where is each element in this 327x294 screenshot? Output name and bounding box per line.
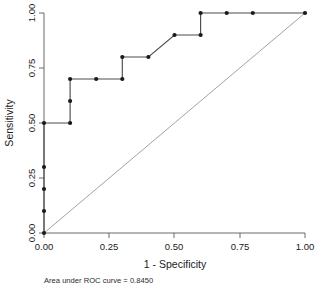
roc-data-point: [68, 121, 72, 125]
x-axis-title: 1 - Specificity: [144, 258, 207, 270]
roc-data-point: [68, 77, 72, 81]
roc-data-point: [146, 55, 150, 59]
roc-data-point: [199, 33, 203, 37]
y-tick-label-1: 0.25: [26, 169, 37, 188]
roc-data-point: [68, 99, 72, 103]
roc-data-point: [42, 231, 46, 235]
x-tick-label-0: 0.00: [35, 241, 54, 252]
x-tick-label-4: 1.00: [296, 241, 315, 252]
roc-data-point: [42, 165, 46, 169]
y-tick-label-0: 0.00: [26, 224, 37, 243]
x-tick-label-2: 0.50: [165, 241, 184, 252]
roc-data-point: [120, 55, 124, 59]
y-tick-label-4: 1.00: [26, 4, 37, 23]
roc-data-point: [42, 187, 46, 191]
roc-data-point: [172, 33, 176, 37]
x-axis-ticks: [44, 233, 305, 238]
y-axis-tick-labels: 0.00 0.25 0.50 0.75 1.00: [26, 4, 37, 243]
y-axis-title: Sensitivity: [3, 99, 15, 147]
y-tick-label-3: 0.75: [26, 59, 37, 78]
roc-data-point: [303, 11, 307, 15]
roc-data-point: [199, 11, 203, 15]
roc-data-point: [42, 121, 46, 125]
roc-data-point: [225, 11, 229, 15]
roc-data-point: [42, 209, 46, 213]
roc-data-point: [94, 77, 98, 81]
roc-data-point: [120, 77, 124, 81]
auc-caption: Area under ROC curve = 0.8450: [44, 276, 153, 285]
roc-data-point: [251, 11, 255, 15]
x-tick-label-1: 0.25: [100, 241, 119, 252]
x-axis-tick-labels: 0.00 0.25 0.50 0.75 1.00: [35, 241, 315, 252]
x-tick-label-3: 0.75: [231, 241, 250, 252]
roc-chart-canvas: 0.00 0.25 0.50 0.75 1.00 0.00 0.25 0.50 …: [0, 0, 327, 294]
y-tick-label-2: 0.50: [26, 114, 37, 133]
roc-curve-figure: 0.00 0.25 0.50 0.75 1.00 0.00 0.25 0.50 …: [0, 0, 327, 294]
